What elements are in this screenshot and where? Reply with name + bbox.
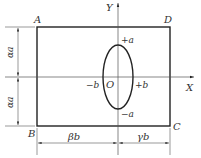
- ellipse-left-label: −b: [86, 80, 100, 90]
- dim-left-upper-label: αa: [5, 47, 15, 58]
- corner-d-label: D: [163, 14, 172, 25]
- corner-a-label: A: [33, 14, 41, 25]
- y-axis-label: Y: [106, 2, 114, 13]
- origin-label: O: [106, 79, 114, 90]
- corner-c-label: C: [173, 121, 181, 132]
- ellipse-bottom-label: −a: [121, 109, 134, 119]
- dim-bottom-left-label: βb: [67, 131, 80, 142]
- ellipse-top-label: +a: [121, 35, 134, 45]
- x-axis-label: X: [185, 82, 194, 93]
- dim-left-lower-label: αa: [5, 97, 15, 108]
- dim-bottom-right-label: γb: [137, 131, 149, 142]
- ellipse-right-label: +b: [135, 80, 149, 90]
- plate-ellipse-diagram: A D B C Y X O +a −a −b +b αa αa βb γb: [0, 0, 201, 158]
- corner-b-label: B: [27, 128, 35, 139]
